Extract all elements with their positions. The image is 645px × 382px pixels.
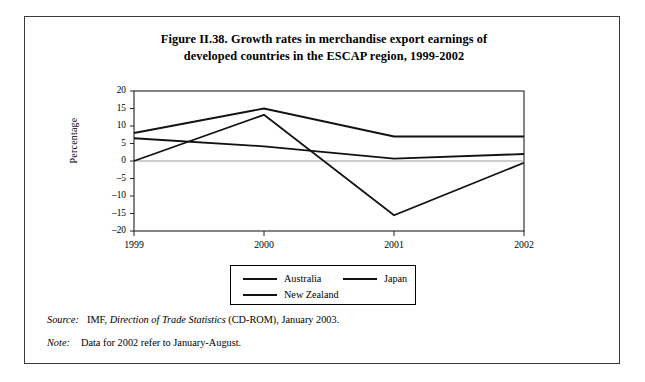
note-label: Note:	[47, 337, 81, 348]
series-line-australia	[134, 109, 524, 137]
y-axis-tick-label: –15	[86, 208, 126, 218]
legend-item-new-zealand[interactable]: New Zealand	[243, 287, 339, 302]
x-axis-tick-label: 2000	[244, 239, 284, 250]
note-text: Data for 2002 refer to January-August.	[81, 337, 241, 348]
y-axis-tick-label: 20	[86, 85, 126, 95]
chart-plot-area: Percentage 20151050–5–10–15–201999200020…	[25, 17, 621, 365]
legend-line-icon	[243, 278, 277, 280]
y-axis-tick-label: 5	[86, 138, 126, 148]
legend-line-icon	[343, 278, 377, 280]
source-post: (CD-ROM), January 2003.	[228, 314, 339, 325]
y-axis-tick-label: 10	[86, 120, 126, 130]
figure-frame: Figure II.38. Growth rates in merchandis…	[24, 16, 620, 364]
source-note: Source:IMF, Direction of Trade Statistic…	[47, 314, 339, 325]
source-publication: Direction of Trade Statistics	[110, 314, 226, 325]
y-axis-tick-label: –10	[86, 190, 126, 200]
data-note: Note:Data for 2002 refer to January-Augu…	[47, 337, 241, 348]
y-axis-tick-label: –5	[86, 173, 126, 183]
legend-line-icon	[243, 294, 277, 296]
x-axis-tick-label: 2002	[504, 239, 544, 250]
x-axis-tick-label: 1999	[114, 239, 154, 250]
legend-label-australia: Australia	[284, 273, 321, 284]
series-line-new-zealand	[134, 115, 524, 215]
legend-item-japan[interactable]: Japan	[343, 271, 407, 286]
chart-legend: Australia Japan New Zealand	[230, 265, 416, 305]
source-label: Source:	[47, 314, 87, 325]
y-axis-tick-label: 0	[86, 155, 126, 165]
legend-item-australia[interactable]: Australia	[243, 271, 321, 286]
source-pre: IMF,	[87, 314, 107, 325]
legend-label-japan: Japan	[384, 273, 407, 284]
y-axis-tick-label: –20	[86, 225, 126, 235]
y-axis-tick-label: 15	[86, 103, 126, 113]
y-axis-title: Percentage	[68, 81, 79, 201]
legend-label-new-zealand: New Zealand	[284, 289, 339, 300]
series-line-japan	[134, 138, 524, 158]
x-axis-tick-label: 2001	[374, 239, 414, 250]
